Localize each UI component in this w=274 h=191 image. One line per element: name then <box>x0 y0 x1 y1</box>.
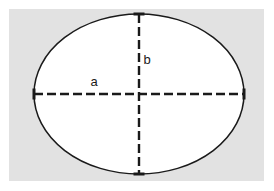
ellipse-diagram: a b <box>0 0 274 191</box>
minor-axis-label: b <box>143 52 150 67</box>
major-axis-label: a <box>90 74 98 89</box>
figure-root: a b <box>0 0 274 191</box>
